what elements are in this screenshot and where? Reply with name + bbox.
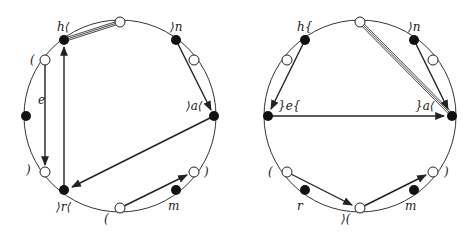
point-label: }e{ [278, 99, 301, 113]
point-label: }a⟨ [415, 99, 435, 113]
open-point [115, 17, 125, 27]
open-point [40, 167, 50, 177]
right-chord-diagram: h{⟩n}e{}a⟨()r⟩(m [263, 17, 457, 226]
point-label: m [168, 199, 179, 213]
point-label: m [405, 199, 416, 213]
outer-circle [24, 20, 216, 212]
open-point [189, 167, 199, 177]
point-label: ( [104, 212, 109, 226]
point-label: ( [30, 53, 35, 67]
filled-point [171, 185, 181, 195]
filled-point [409, 35, 419, 45]
point-label: r [297, 199, 304, 213]
point-label: ⟩n [407, 20, 420, 34]
point-label: ⟩( [340, 212, 351, 226]
point-label: ⟩r⟨ [55, 200, 71, 214]
point-label: h{ [297, 20, 313, 34]
open-point [428, 167, 438, 177]
filled-point [209, 111, 219, 121]
filled-point [21, 111, 31, 121]
filled-point [59, 185, 69, 195]
left-chord-diagram: h⟨⟩n(e⟩a⟨))⟩r⟨m( [21, 17, 219, 226]
open-point [355, 203, 365, 213]
open-point [40, 55, 50, 65]
point-label: e [38, 93, 45, 107]
point-label: ( [268, 165, 273, 179]
double-chord-line [359, 23, 449, 114]
filled-point [409, 185, 419, 195]
point-label: ⟩n [169, 20, 182, 34]
open-point [355, 17, 365, 27]
filled-point [300, 35, 310, 45]
point-label: h⟨ [57, 20, 70, 34]
filled-point [447, 111, 457, 121]
filled-point [300, 185, 310, 195]
filled-point [263, 111, 273, 121]
chord-diagrams: h⟨⟩n(e⟩a⟨))⟩r⟨m( h{⟩n}e{}a⟨()r⟩(m [0, 0, 476, 235]
point-label: ) [25, 163, 31, 177]
open-point [115, 203, 125, 213]
point-label: ) [203, 165, 209, 179]
double-chord-line [64, 22, 120, 40]
point-label: ⟩a⟨ [185, 99, 203, 113]
open-point [282, 55, 292, 65]
open-point [282, 167, 292, 177]
open-point [428, 55, 438, 65]
point-label: ) [443, 165, 449, 179]
double-chord-line [64, 20, 120, 38]
filled-point [59, 35, 69, 45]
filled-point [171, 35, 181, 45]
double-chord-line [361, 21, 451, 112]
double-chord-line [360, 22, 450, 113]
open-point [189, 55, 199, 65]
